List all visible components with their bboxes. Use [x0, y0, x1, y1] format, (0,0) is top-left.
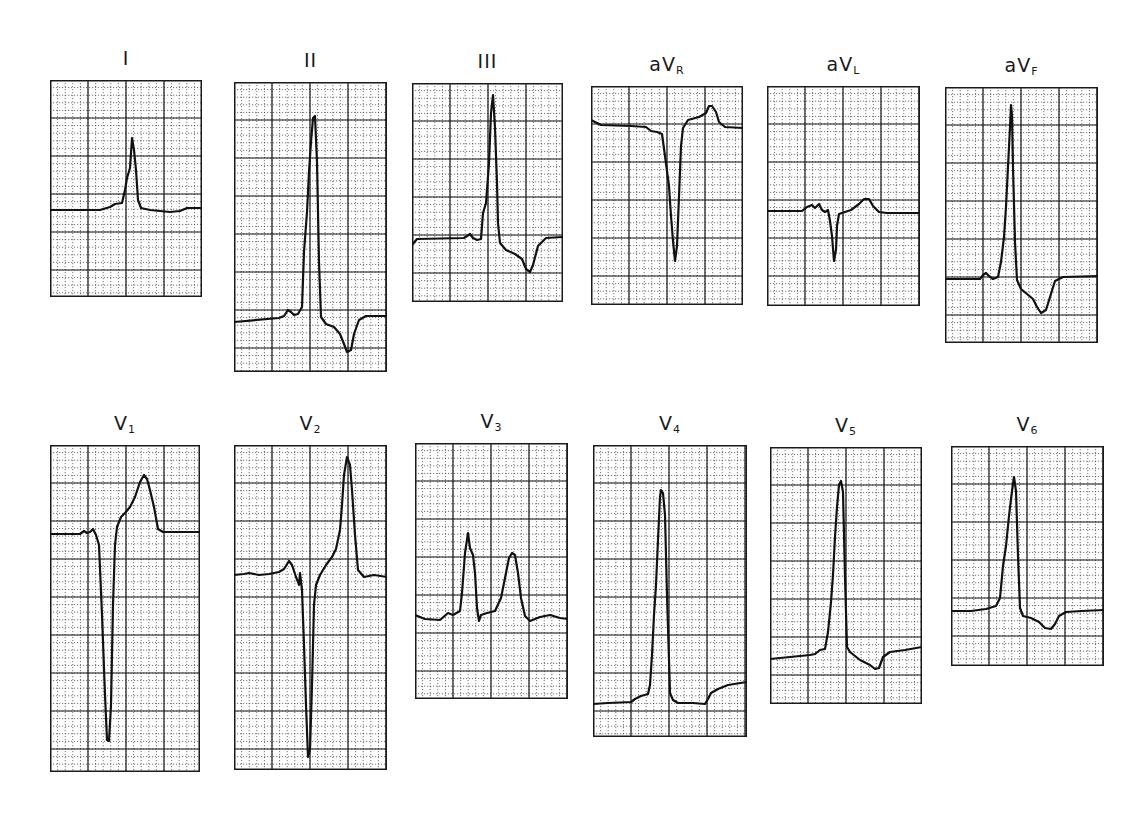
ecg-panel-ii: [234, 82, 387, 372]
ecg-panel-v6: [951, 446, 1104, 666]
ecg-panel-avr: [591, 86, 743, 305]
lead-label-avf: aVF: [992, 54, 1052, 78]
ecg-panel-i: [50, 80, 202, 297]
ecg-panel-v4: [593, 445, 747, 737]
lead-label-avl: aVL: [814, 53, 874, 77]
ecg-panel-v2: [234, 445, 387, 770]
lead-label-ii: II: [281, 49, 341, 71]
lead-label-v1: V1: [95, 412, 155, 436]
ecg-panel-avf: [945, 87, 1098, 343]
lead-label-v2: V2: [281, 412, 341, 436]
ecg-panel-v1: [50, 445, 200, 772]
lead-label-iii: III: [458, 50, 518, 72]
ecg-panel-avl: [767, 86, 920, 306]
lead-label-v3: V3: [462, 410, 522, 434]
lead-label-v6: V6: [998, 413, 1058, 437]
lead-label-i: I: [96, 47, 156, 69]
ecg-panel-v3: [415, 443, 568, 699]
ecg-panel-v5: [770, 447, 922, 704]
lead-label-avr: aVR: [637, 53, 697, 77]
lead-label-v5: V5: [816, 414, 876, 438]
ecg-panel-iii: [412, 83, 563, 302]
lead-label-v4: V4: [640, 412, 700, 436]
